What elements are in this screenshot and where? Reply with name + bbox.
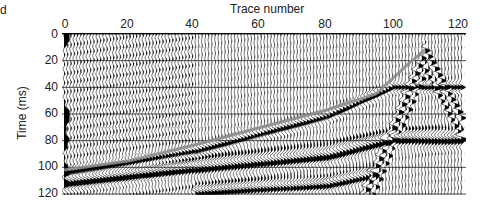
x-tick-60: 60 <box>251 17 264 31</box>
y-tick-60: 60 <box>38 106 58 120</box>
x-tick-120: 120 <box>448 17 468 31</box>
y-tick-20: 20 <box>38 53 58 67</box>
x-tick-80: 80 <box>318 17 331 31</box>
x-tick-40: 40 <box>185 17 198 31</box>
x-tick-0: 0 <box>62 17 69 31</box>
y-tick-80: 80 <box>38 133 58 147</box>
y-tick-120: 120 <box>38 186 58 200</box>
x-tick-100: 100 <box>383 17 403 31</box>
y-axis-title: Time (ms) <box>15 86 29 140</box>
y-tick-0: 0 <box>38 27 58 41</box>
panel-label: d <box>0 3 7 17</box>
y-tick-40: 40 <box>38 80 58 94</box>
x-tick-20: 20 <box>120 17 133 31</box>
seismic-wiggle-plot <box>62 33 466 195</box>
y-tick-100: 100 <box>38 159 58 173</box>
x-axis-title: Trace number <box>230 2 304 16</box>
